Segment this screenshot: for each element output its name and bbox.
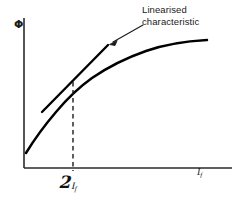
annotation-line-2: characteristic [142,16,199,28]
x-axis-label: If [197,166,202,179]
linearised-characteristic-annotation: Linearised characteristic [142,4,199,27]
magnetisation-characteristic-figure: Φ If Linearised characteristic 2If [0,0,239,205]
linearised-characteristic-line [42,45,108,112]
x-axis-label-subscript: f [200,171,202,179]
operating-point-symbol: If [71,180,77,191]
plot-canvas [0,0,239,205]
saturation-curve [26,40,207,153]
annotation-arrow [110,25,144,46]
y-axis-label: Φ [14,18,23,31]
annotation-line-1: Linearised [142,4,199,16]
operating-point-label: 2If [59,172,78,193]
